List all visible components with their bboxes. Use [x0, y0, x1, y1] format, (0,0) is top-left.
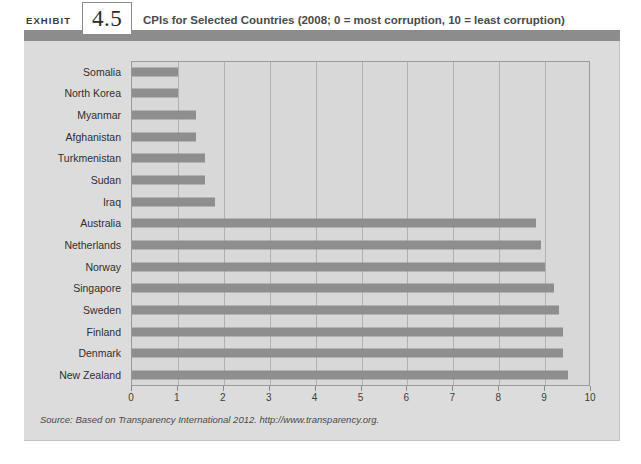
x-tick — [544, 386, 545, 391]
x-tick-label: 10 — [575, 392, 605, 403]
bar — [132, 349, 563, 358]
x-tick-label: 5 — [346, 392, 376, 403]
x-tick-label: 9 — [529, 392, 559, 403]
source-note: Source: Based on Transparency Internatio… — [40, 414, 379, 425]
bar-row: New Zealand — [0, 364, 641, 386]
exhibit-figure: EXHIBIT CPIs for Selected Countries (200… — [0, 0, 641, 464]
bar-row: North Korea — [0, 83, 641, 105]
bar-rows: SomaliaNorth KoreaMyanmarAfghanistanTurk… — [0, 61, 641, 386]
bar-row: Netherlands — [0, 234, 641, 256]
exhibit-number: 4.5 — [83, 6, 131, 32]
x-tick — [315, 386, 316, 391]
category-label: Australia — [0, 217, 121, 229]
x-tick — [498, 386, 499, 391]
exhibit-title: CPIs for Selected Countries (2008; 0 = m… — [143, 14, 565, 26]
x-tick-label: 4 — [300, 392, 330, 403]
x-tick-label: 0 — [116, 392, 146, 403]
bar-row: Sudan — [0, 169, 641, 191]
category-label: Denmark — [0, 347, 121, 359]
bar — [132, 67, 178, 76]
category-label: Iraq — [0, 196, 121, 208]
bar — [132, 132, 196, 141]
x-tick — [131, 386, 132, 391]
bar — [132, 154, 205, 163]
x-axis: 012345678910 — [131, 386, 590, 412]
x-tick — [177, 386, 178, 391]
category-label: New Zealand — [0, 369, 121, 381]
bar — [132, 219, 536, 228]
x-tick-label: 8 — [483, 392, 513, 403]
bar-row: Turkmenistan — [0, 148, 641, 170]
x-tick-label: 2 — [208, 392, 238, 403]
bar — [132, 306, 559, 315]
x-tick — [452, 386, 453, 391]
x-tick-label: 6 — [391, 392, 421, 403]
category-label: Myanmar — [0, 109, 121, 121]
bar-row: Finland — [0, 321, 641, 343]
x-tick-label: 1 — [162, 392, 192, 403]
bar — [132, 241, 541, 250]
bar-row: Somalia — [0, 61, 641, 83]
category-label: North Korea — [0, 87, 121, 99]
bar-row: Afghanistan — [0, 126, 641, 148]
category-label: Turkmenistan — [0, 152, 121, 164]
category-label: Sweden — [0, 304, 121, 316]
category-label: Sudan — [0, 174, 121, 186]
x-tick — [406, 386, 407, 391]
x-tick — [269, 386, 270, 391]
bar — [132, 176, 205, 185]
bar-row: Denmark — [0, 343, 641, 365]
category-label: Norway — [0, 261, 121, 273]
bar-row: Norway — [0, 256, 641, 278]
bar — [132, 111, 196, 120]
bar-row: Myanmar — [0, 104, 641, 126]
x-tick-label: 7 — [437, 392, 467, 403]
bar — [132, 197, 215, 206]
category-label: Afghanistan — [0, 131, 121, 143]
bar-row: Sweden — [0, 299, 641, 321]
bar — [132, 262, 545, 271]
category-label: Somalia — [0, 66, 121, 78]
x-tick — [223, 386, 224, 391]
exhibit-label: EXHIBIT — [26, 15, 71, 26]
category-label: Netherlands — [0, 239, 121, 251]
exhibit-number-box: 4.5 — [82, 2, 132, 35]
bar — [132, 89, 178, 98]
bar-row: Australia — [0, 213, 641, 235]
bar — [132, 284, 554, 293]
bar — [132, 327, 563, 336]
bar — [132, 371, 568, 380]
bar-row: Singapore — [0, 278, 641, 300]
x-tick-label: 3 — [254, 392, 284, 403]
bar-row: Iraq — [0, 191, 641, 213]
category-label: Singapore — [0, 282, 121, 294]
x-tick — [361, 386, 362, 391]
x-tick — [590, 386, 591, 391]
category-label: Finland — [0, 326, 121, 338]
